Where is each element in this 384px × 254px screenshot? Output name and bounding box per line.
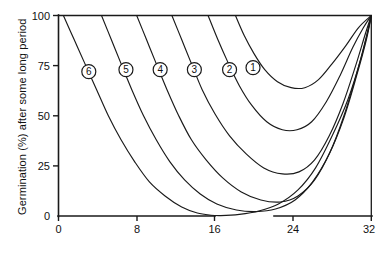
x-axis-ticks: 0 8 16 24 32 <box>55 216 375 235</box>
x-tick-label: 0 <box>55 223 61 235</box>
series-label-4: 4 <box>153 63 167 77</box>
series-label-6: 6 <box>82 65 96 79</box>
x-tick-8: 8 <box>134 216 140 235</box>
series-label-3: 3 <box>187 63 201 77</box>
series-label-1: 1 <box>246 61 260 75</box>
y-tick-label: 0 <box>44 210 50 222</box>
series-label-text-2: 2 <box>227 64 233 75</box>
series-label-text-3: 3 <box>192 64 198 75</box>
germination-figure: Germination (%) after some long period 1… <box>0 0 384 254</box>
series-label-text-4: 4 <box>157 64 163 75</box>
series-curve-6 <box>63 16 371 216</box>
series-label-5: 5 <box>119 63 133 77</box>
y-axis-label: Germination (%) after some long period <box>16 19 28 215</box>
series-label-text-1: 1 <box>250 62 256 73</box>
y-tick-label: 100 <box>32 10 50 22</box>
x-tick-label: 24 <box>287 223 299 235</box>
y-tick-100: 100 <box>32 10 59 22</box>
y-tick-50: 50 <box>38 110 59 122</box>
x-tick-16: 16 <box>208 216 220 235</box>
x-tick-label: 32 <box>363 223 375 235</box>
x-tick-32: 32 <box>363 216 375 235</box>
chart-series-labels: 654321 <box>82 61 260 79</box>
y-tick-75: 75 <box>38 60 59 72</box>
plot-frame <box>58 16 372 217</box>
y-axis-ticks: 100 75 50 25 0 <box>32 10 59 223</box>
y-tick-label: 75 <box>38 60 50 72</box>
y-tick-0: 0 <box>44 210 50 222</box>
x-tick-label: 16 <box>208 223 220 235</box>
series-label-text-5: 5 <box>123 64 129 75</box>
series-label-text-6: 6 <box>86 66 92 77</box>
x-tick-24: 24 <box>287 216 299 235</box>
x-tick-label: 8 <box>134 223 140 235</box>
series-curve-5 <box>102 16 372 212</box>
x-tick-0: 0 <box>55 216 61 235</box>
chart-series-curves <box>63 16 371 216</box>
y-tick-label: 25 <box>38 160 50 172</box>
y-axis-label-container: Germination (%) after some long period <box>0 0 22 254</box>
chart-plot-area: 100 75 50 25 0 0 <box>0 0 384 254</box>
y-tick-25: 25 <box>38 160 59 172</box>
series-label-2: 2 <box>223 63 237 77</box>
series-curve-3 <box>172 16 371 175</box>
chart-axes <box>58 15 372 217</box>
y-tick-label: 50 <box>38 110 50 122</box>
